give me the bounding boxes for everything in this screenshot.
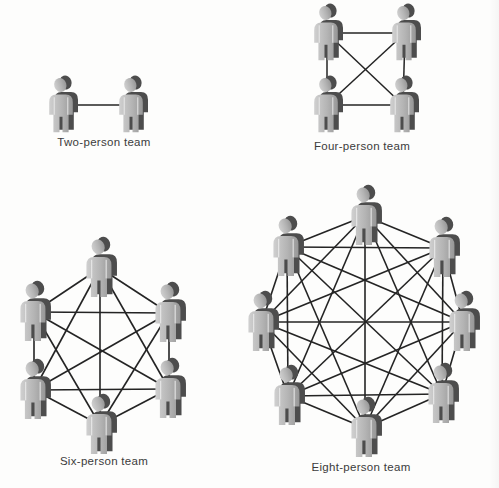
- person-icon: [390, 74, 419, 132]
- figure-canvas: [0, 0, 499, 488]
- person-icon: [119, 74, 148, 132]
- person-icon: [314, 74, 343, 132]
- figure-team-communication: Two-person team Four-person team Six-per…: [0, 0, 499, 488]
- person-icon: [428, 361, 459, 423]
- six-person-team-diagram: [20, 235, 186, 454]
- person-icon: [155, 280, 186, 342]
- person-icon: [273, 214, 304, 276]
- person-icon: [248, 289, 279, 351]
- person-icon: [20, 279, 51, 341]
- person-icon: [86, 235, 117, 297]
- four-person-team-diagram: [314, 2, 421, 132]
- person-icon: [49, 74, 78, 132]
- person-icon: [449, 289, 480, 351]
- person-icon: [351, 183, 382, 245]
- communication-line: [287, 247, 443, 248]
- six-person-team-label: Six-person team: [60, 455, 148, 467]
- person-icon: [86, 392, 117, 454]
- person-icon: [429, 215, 460, 277]
- person-icon: [392, 2, 421, 60]
- eight-person-team-diagram: [248, 183, 480, 457]
- two-person-team-label: Two-person team: [57, 136, 150, 148]
- communication-line: [34, 312, 169, 313]
- two-person-team-diagram: [49, 74, 148, 132]
- person-icon: [155, 356, 186, 418]
- communication-line: [34, 389, 169, 390]
- eight-person-team-label: Eight-person team: [311, 461, 410, 473]
- person-icon: [314, 2, 343, 60]
- four-person-team-label: Four-person team: [314, 140, 410, 152]
- communication-line: [288, 394, 442, 396]
- person-icon: [351, 395, 382, 457]
- communication-line: [34, 312, 169, 389]
